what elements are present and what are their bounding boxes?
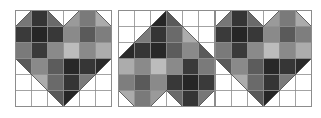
quilt-patch xyxy=(135,43,151,59)
quilt-patch xyxy=(16,43,32,59)
quilt-patch xyxy=(296,27,312,43)
quilt-patch xyxy=(80,11,96,27)
quilt-patch xyxy=(64,43,80,59)
quilt-patch xyxy=(232,11,248,27)
heart-block-1 xyxy=(15,10,111,108)
quilt-patch xyxy=(151,59,167,75)
quilt-patch xyxy=(48,75,64,91)
quilt-patch xyxy=(135,59,151,75)
quilt-patch xyxy=(183,91,199,107)
quilt-patch xyxy=(264,75,280,91)
quilt-patch xyxy=(167,59,183,75)
quilt-patch xyxy=(64,75,80,91)
quilt-patch xyxy=(280,59,296,75)
quilt-patch xyxy=(264,43,280,59)
quilt-patch xyxy=(64,59,80,75)
quilt-patch xyxy=(16,27,32,43)
heart-block-2-inverted xyxy=(118,10,214,108)
quilt-patch xyxy=(119,75,135,91)
quilt-patch xyxy=(248,75,264,91)
quilt-patch xyxy=(48,59,64,75)
quilt-patch xyxy=(135,75,151,91)
quilt-patch xyxy=(96,43,112,59)
quilt-patch xyxy=(280,11,296,27)
quilt-patch xyxy=(280,43,296,59)
heart-block-3 xyxy=(215,10,311,108)
quilt-patch xyxy=(248,27,264,43)
quilt-patch xyxy=(151,43,167,59)
quilt-patch xyxy=(151,75,167,91)
quilt-patch xyxy=(96,27,112,43)
quilt-patch xyxy=(296,43,312,59)
quilt-patch xyxy=(183,43,199,59)
quilt-patch xyxy=(167,43,183,59)
quilt-patch xyxy=(48,27,64,43)
quilt-patch xyxy=(48,43,64,59)
quilt-patch xyxy=(80,27,96,43)
quilt-patch xyxy=(232,59,248,75)
quilt-patch xyxy=(32,11,48,27)
quilt-patch xyxy=(64,27,80,43)
quilt-patch xyxy=(264,27,280,43)
quilt-patch xyxy=(199,75,215,91)
quilt-patch xyxy=(119,59,135,75)
quilt-patch xyxy=(216,27,232,43)
quilt-patch xyxy=(80,43,96,59)
quilt-patch xyxy=(232,43,248,59)
quilt-patch xyxy=(32,59,48,75)
quilt-patch xyxy=(248,43,264,59)
quilt-patch xyxy=(183,59,199,75)
quilt-patch xyxy=(232,27,248,43)
quilt-patch xyxy=(151,27,167,43)
quilt-patch xyxy=(167,27,183,43)
quilt-patch xyxy=(80,59,96,75)
quilt-patch xyxy=(32,43,48,59)
quilt-patch xyxy=(264,59,280,75)
quilt-patch xyxy=(135,91,151,107)
quilt-patch xyxy=(280,27,296,43)
quilt-patch xyxy=(167,75,183,91)
quilt-patch xyxy=(248,59,264,75)
quilt-patch xyxy=(199,59,215,75)
quilt-patch xyxy=(183,75,199,91)
quilt-patch xyxy=(32,27,48,43)
quilt-patch xyxy=(216,43,232,59)
